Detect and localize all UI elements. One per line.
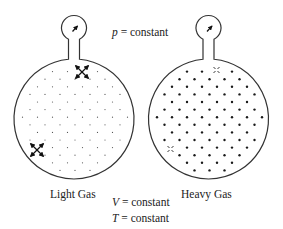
gas-particle	[59, 139, 60, 140]
gas-particle	[44, 109, 45, 110]
gas-particle	[67, 86, 68, 87]
gas-particle	[97, 132, 98, 133]
gas-particle	[44, 139, 45, 140]
gas-particle	[67, 162, 68, 163]
gas-particle	[171, 86, 173, 88]
gas-particle	[89, 139, 90, 140]
gas-particle	[231, 86, 233, 88]
gas-particle	[89, 124, 90, 125]
gas-particle	[223, 108, 225, 110]
gas-particle	[253, 139, 255, 141]
gas-particle	[231, 146, 233, 148]
gas-particle	[171, 101, 173, 103]
gas-particle	[59, 109, 60, 110]
gas-particle	[238, 124, 240, 126]
gas-particle	[104, 155, 105, 156]
gas-particle	[216, 162, 218, 164]
gas-particle	[163, 108, 165, 110]
gas-particle	[89, 79, 90, 80]
gas-particle	[112, 132, 113, 133]
gas-particle	[186, 146, 188, 148]
gas-particle	[44, 124, 45, 125]
gas-particle	[231, 70, 233, 72]
gas-particle	[238, 93, 240, 95]
gas-particle	[178, 124, 180, 126]
gas-particle	[119, 109, 120, 110]
gas-particle	[178, 93, 180, 95]
gas-particle	[216, 116, 218, 118]
gas-particle	[178, 154, 180, 156]
gas-particle	[208, 154, 210, 156]
gas-particle	[231, 116, 233, 118]
gas-particle	[201, 86, 203, 88]
gas-particle	[216, 146, 218, 148]
gas-particle	[37, 101, 38, 102]
gas-particle	[216, 86, 218, 88]
gas-particle	[97, 117, 98, 118]
gas-particle	[82, 86, 83, 87]
light-gas-label: Light Gas	[50, 188, 96, 201]
gas-particle	[186, 86, 188, 88]
gas-particle	[74, 94, 75, 95]
gas-particle	[29, 109, 30, 110]
gas-particle	[67, 71, 68, 72]
gas-particle	[112, 117, 113, 118]
gas-particle	[186, 101, 188, 103]
gas-particle	[253, 93, 255, 95]
gas-particle	[74, 170, 75, 171]
diagram-canvas: p = constant Light Gas Heavy Gas V = con…	[0, 0, 283, 229]
gas-particle	[82, 162, 83, 163]
gas-particle	[104, 109, 105, 110]
gas-particle	[119, 124, 120, 125]
gas-particle	[52, 132, 53, 133]
heavy-gas-label: Heavy Gas	[181, 188, 232, 201]
gas-particle	[238, 78, 240, 80]
gas-particle	[82, 101, 83, 102]
temperature-constant-label: T = constant	[112, 212, 170, 224]
gas-particle	[89, 94, 90, 95]
gas-particle	[97, 162, 98, 163]
gas-particle	[104, 139, 105, 140]
gas-particle	[59, 170, 60, 171]
gas-particle	[52, 117, 53, 118]
gas-particle	[74, 155, 75, 156]
gas-particle	[22, 117, 23, 118]
gas-particle	[163, 93, 165, 95]
gas-particle	[104, 124, 105, 125]
gas-flasks-diagram: p = constant Light Gas Heavy Gas V = con…	[0, 0, 283, 229]
gas-particle	[223, 154, 225, 156]
gas-particle	[59, 94, 60, 95]
gas-particle	[82, 147, 83, 148]
gas-particle	[29, 94, 30, 95]
volume-constant-label: V = constant	[112, 196, 170, 208]
gas-particle	[59, 79, 60, 80]
gas-particle	[156, 116, 158, 118]
gas-particle	[59, 155, 60, 156]
gas-particle	[178, 108, 180, 110]
gas-particle	[37, 132, 38, 133]
gas-particle	[238, 108, 240, 110]
gas-particle	[29, 139, 30, 140]
gas-particle	[112, 147, 113, 148]
gas-particle	[231, 131, 233, 133]
light-gas-flask	[14, 15, 134, 179]
gas-particle	[186, 131, 188, 133]
gas-particle	[97, 71, 98, 72]
gas-particle	[52, 162, 53, 163]
gas-particle	[223, 124, 225, 126]
gas-particle	[67, 117, 68, 118]
gas-particle	[201, 101, 203, 103]
heavy-gas-flask	[149, 15, 269, 179]
gas-particle	[67, 101, 68, 102]
gas-particle	[89, 155, 90, 156]
gas-particle	[208, 124, 210, 126]
gas-particle	[67, 132, 68, 133]
gas-particle	[127, 117, 128, 118]
gas-particle	[97, 101, 98, 102]
gas-particle	[112, 101, 113, 102]
pressure-constant-label: p = constant	[111, 26, 169, 39]
gas-particle	[44, 94, 45, 95]
gas-particle	[238, 154, 240, 156]
gas-particle	[208, 139, 210, 141]
gas-particle	[163, 139, 165, 141]
